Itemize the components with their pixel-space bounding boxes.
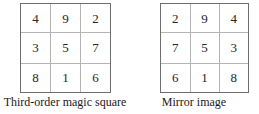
mirror-image-grid: 2 9 4 7 5 3 6 1 8	[160, 3, 249, 93]
panel-magic-square: 4 9 2 3 5 7 8 1 6 Third-order magic squa…	[0, 0, 130, 114]
cell-r2c1: 1	[51, 63, 81, 92]
mirror-cell-r0c2: 4	[219, 4, 248, 33]
cell-r0c1: 9	[51, 4, 81, 33]
magic-square-figure: 4 9 2 3 5 7 8 1 6 Third-order magic squa…	[0, 0, 259, 114]
table-row: 3 5 7	[21, 33, 110, 63]
panel-mirror-image: 2 9 4 7 5 3 6 1 8 Mirror image	[129, 0, 259, 114]
mirror-cell-r2c0: 6	[161, 63, 190, 92]
cell-r0c2: 2	[80, 4, 110, 33]
caption-magic-square: Third-order magic square	[0, 95, 130, 110]
table-row: 2 9 4	[161, 4, 248, 33]
cell-r1c0: 3	[21, 33, 51, 63]
cell-r2c0: 8	[21, 63, 51, 92]
mirror-cell-r2c2: 8	[219, 63, 248, 92]
mirror-cell-r0c0: 2	[161, 4, 190, 33]
cell-r1c1: 5	[51, 33, 81, 63]
mirror-cell-r2c1: 1	[190, 63, 219, 92]
cell-r1c2: 7	[80, 33, 110, 63]
table-row: 6 1 8	[161, 63, 248, 92]
cell-r2c2: 6	[80, 63, 110, 92]
mirror-image-table: 2 9 4 7 5 3 6 1 8	[161, 4, 248, 92]
mirror-cell-r1c0: 7	[161, 33, 190, 63]
cell-r0c0: 4	[21, 4, 51, 33]
caption-mirror-image: Mirror image	[129, 95, 259, 110]
table-row: 7 5 3	[161, 33, 248, 63]
table-row: 8 1 6	[21, 63, 110, 92]
magic-square-grid: 4 9 2 3 5 7 8 1 6	[20, 3, 111, 93]
mirror-cell-r1c1: 5	[190, 33, 219, 63]
magic-square-table: 4 9 2 3 5 7 8 1 6	[21, 4, 110, 92]
table-row: 4 9 2	[21, 4, 110, 33]
mirror-cell-r1c2: 3	[219, 33, 248, 63]
mirror-cell-r0c1: 9	[190, 4, 219, 33]
